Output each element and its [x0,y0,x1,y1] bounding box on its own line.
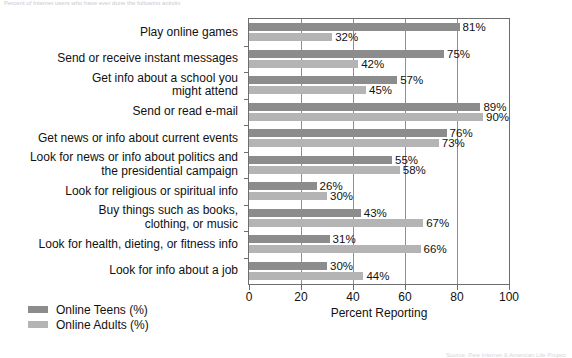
bar-value-label: 31% [330,233,356,245]
bar-groups: 81%32%75%42%57%45%89%90%76%73%55%58%26%3… [249,19,509,284]
bar-value-label: 57% [397,74,423,86]
bar-row: 30% [249,262,509,270]
bar [249,156,392,164]
bar-value-label: 67% [423,217,449,229]
bar [249,262,327,270]
bar [249,245,421,253]
category-label: Play online games [140,26,238,40]
category-tick [244,231,249,232]
legend-item[interactable]: Online Teens (%) [28,303,149,316]
category-label: Look for info about a job [109,264,238,278]
bar-row: 90% [249,113,509,121]
figure-top-caption: Percent of Internet users who have ever … [4,0,404,5]
bar-value-label: 32% [332,31,358,43]
category-label: Look for health, dieting, or fitness inf… [39,238,238,252]
category-tick [244,205,249,206]
category-tick [244,46,249,47]
bar [249,113,483,121]
chart-figure: Percent of Internet users who have ever … [0,0,572,358]
bar-group: 89%90% [249,99,509,126]
x-tick-label: 60 [398,290,411,304]
bar-value-label: 44% [363,270,389,282]
x-axis-tick-labels: 020406080100 [248,290,510,306]
bar-row: 76% [249,129,509,137]
bar-value-label: 73% [439,137,465,149]
x-tick-label: 40 [346,290,359,304]
bar [249,50,444,58]
bar [249,23,460,31]
bar-row: 31% [249,235,509,243]
figure-footnote: Source: Pew Internet & American Life Pro… [446,352,566,358]
bar-value-label: 45% [366,84,392,96]
bar-group: 75%42% [249,46,509,73]
bar-row: 67% [249,219,509,227]
bar-row: 44% [249,272,509,280]
bar-value-label: 30% [327,190,353,202]
x-tick-label: 20 [294,290,307,304]
bar [249,182,317,190]
category-tick [244,258,249,259]
bar-group: 76%73% [249,125,509,152]
bar-group: 26%30% [249,178,509,205]
x-tick-label: 80 [450,290,463,304]
category-label: Buy things such as books, clothing, or m… [99,204,238,231]
bar [249,209,361,217]
bar-value-label: 75% [444,48,470,60]
bar [249,166,400,174]
bar [249,103,480,111]
category-tick [244,125,249,126]
category-label: Look for news or info about politics and… [30,151,238,178]
category-label: Get news or info about current events [38,132,238,146]
bar-group: 43%67% [249,205,509,232]
bar [249,272,363,280]
legend-swatch [28,306,48,313]
bar [249,219,423,227]
bar [249,235,330,243]
x-tick-label: 100 [499,290,519,304]
category-label: Send or receive instant messages [57,52,238,66]
legend-label: Online Teens (%) [56,303,148,317]
legend-swatch [28,321,48,328]
bar-row: 26% [249,182,509,190]
bar-row: 42% [249,60,509,68]
bar [249,86,366,94]
category-label: Get info about a school you might attend [92,72,238,99]
bar [249,76,397,84]
bar [249,129,447,137]
bar-group: 57%45% [249,72,509,99]
bar-row: 66% [249,245,509,253]
category-label: Send or read e-mail [133,105,238,119]
bar-row: 57% [249,76,509,84]
category-tick [244,72,249,73]
bar-row: 73% [249,139,509,147]
bar-row: 89% [249,103,509,111]
category-tick [244,99,249,100]
bar-row: 30% [249,192,509,200]
bar-value-label: 42% [358,58,384,70]
bar-row: 32% [249,33,509,41]
bar-row: 81% [249,23,509,31]
bar [249,33,332,41]
bar-value-label: 58% [400,164,426,176]
bar-value-label: 66% [421,243,447,255]
bar [249,60,358,68]
legend: Online Teens (%)Online Adults (%) [28,303,149,333]
bar-value-label: 90% [483,111,509,123]
category-axis-labels: Play online gamesSend or receive instant… [0,18,244,285]
bar-row: 75% [249,50,509,58]
bar-group: 55%58% [249,152,509,179]
x-tick-label: 0 [246,290,253,304]
bar-row: 55% [249,156,509,164]
legend-item[interactable]: Online Adults (%) [28,318,149,331]
category-tick [244,152,249,153]
category-label: Look for religious or spiritual info [65,185,238,199]
bar-group: 31%66% [249,231,509,258]
bar [249,139,439,147]
legend-label: Online Adults (%) [56,318,149,332]
bar-group: 81%32% [249,19,509,46]
bar-row: 58% [249,166,509,174]
bar-group: 30%44% [249,258,509,285]
bar [249,192,327,200]
bar-row: 45% [249,86,509,94]
plot-area: 81%32%75%42%57%45%89%90%76%73%55%58%26%3… [248,18,510,285]
